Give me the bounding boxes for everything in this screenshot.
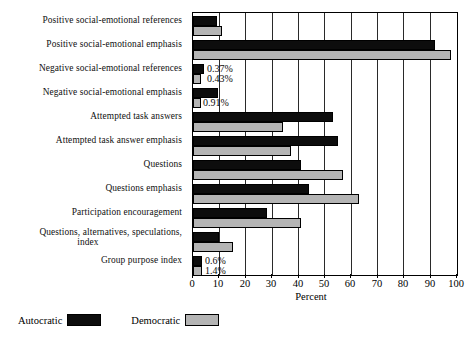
category-label-negative-social-emotional-emphasis: Negative social-emotional emphasis xyxy=(0,87,182,98)
bar-autocratic-negative-social-emotional-references xyxy=(193,64,204,74)
tick-label-100: 100 xyxy=(448,278,464,290)
tick-label-40: 40 xyxy=(293,278,304,290)
tick-label-20: 20 xyxy=(240,278,251,290)
bar-autocratic-questions xyxy=(193,160,301,170)
tick-label-70: 70 xyxy=(372,278,383,290)
bar-value-label-0-43: 0.43% xyxy=(207,74,233,84)
bar-autocratic-group-purpose-index xyxy=(193,256,202,266)
bar-democratic-attempted-task-answers xyxy=(193,122,283,132)
legend-label-democratic: Democratic xyxy=(131,315,180,326)
bar-chart: Positive social-emotional references Pos… xyxy=(0,0,474,342)
tick-label-60: 60 xyxy=(345,278,356,290)
legend-label-autocratic: Autocratic xyxy=(18,315,62,326)
legend-item-autocratic: Autocratic xyxy=(18,314,101,326)
category-label-questions-alternatives-speculations-index-line2: index xyxy=(28,237,148,248)
bar-democratic-attempted-task-answer-emphasis xyxy=(193,146,291,156)
bar-value-label-0-91: 0.91% xyxy=(203,98,229,108)
legend-swatch-autocratic xyxy=(67,314,101,326)
category-label-positive-social-emotional-emphasis: Positive social-emotional emphasis xyxy=(0,39,182,50)
bar-autocratic-questions-alternatives-speculations-index xyxy=(193,232,219,242)
chart-legend: Autocratic Democratic xyxy=(18,310,219,330)
bar-democratic-questions xyxy=(193,170,343,180)
category-label-positive-social-emotional-references: Positive social-emotional references xyxy=(0,15,182,26)
bar-autocratic-questions-emphasis xyxy=(193,184,309,194)
category-label-questions: Questions xyxy=(0,159,182,170)
tick-label-0: 0 xyxy=(189,278,194,290)
bar-autocratic-positive-social-emotional-references xyxy=(193,16,217,26)
tick-label-80: 80 xyxy=(398,278,409,290)
bar-democratic-negative-social-emotional-emphasis xyxy=(193,98,201,108)
legend-item-democratic: Democratic xyxy=(131,314,219,326)
plot-area: 0.37% 0.43% 0.91% 0.6% 1.4% xyxy=(192,12,458,276)
bar-autocratic-participation-encouragement xyxy=(193,208,267,218)
category-label-column: Positive social-emotional references Pos… xyxy=(0,12,186,274)
bar-autocratic-positive-social-emotional-emphasis xyxy=(193,40,435,50)
category-label-questions-alternatives-speculations-index-line1: Questions, alternatives, speculations, xyxy=(0,227,182,238)
tick-label-50: 50 xyxy=(319,278,330,290)
category-label-participation-encouragement: Participation encouragement xyxy=(0,207,182,218)
bar-democratic-positive-social-emotional-references xyxy=(193,26,222,36)
tick-label-10: 10 xyxy=(213,278,224,290)
category-label-negative-social-emotional-references: Negative social-emotional references xyxy=(0,63,182,74)
x-axis: 0 10 20 30 40 50 60 70 80 90 100 Percent xyxy=(192,274,457,302)
bar-autocratic-attempted-task-answers xyxy=(193,112,333,122)
bar-democratic-participation-encouragement xyxy=(193,218,301,228)
category-label-questions-emphasis: Questions emphasis xyxy=(0,183,182,194)
category-label-group-purpose-index: Group purpose index xyxy=(0,255,182,266)
bar-democratic-negative-social-emotional-references xyxy=(193,74,201,84)
bar-democratic-questions-emphasis xyxy=(193,194,359,204)
x-axis-title: Percent xyxy=(295,291,327,303)
bar-autocratic-attempted-task-answer-emphasis xyxy=(193,136,338,146)
category-label-attempted-task-answers: Attempted task answers xyxy=(0,111,182,122)
category-label-attempted-task-answer-emphasis: Attempted task answer emphasis xyxy=(0,135,182,146)
legend-swatch-democratic xyxy=(185,314,219,326)
bar-democratic-positive-social-emotional-emphasis xyxy=(193,50,451,60)
tick-label-90: 90 xyxy=(425,278,436,290)
bar-democratic-questions-alternatives-speculations-index xyxy=(193,242,233,252)
tick-label-30: 30 xyxy=(266,278,277,290)
